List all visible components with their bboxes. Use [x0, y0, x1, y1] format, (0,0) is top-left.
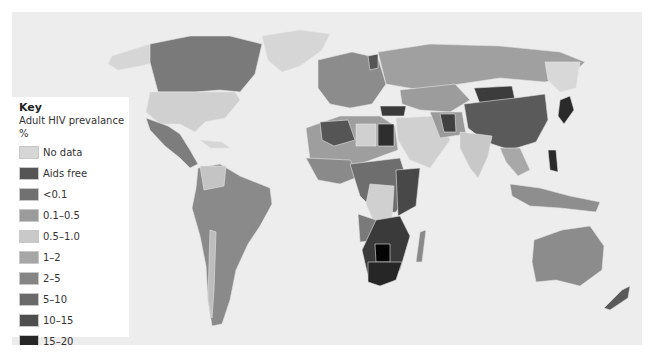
legend-item-lt-0-1: <0.1 [19, 184, 129, 205]
legend-label: 5–10 [43, 294, 67, 305]
region-philippines [548, 150, 558, 172]
region-madagascar [416, 230, 426, 262]
region-turkey [380, 106, 406, 116]
legend-swatch [19, 251, 39, 264]
legend: Key Adult HIV prevalance % No data Aids … [12, 97, 129, 337]
region-far-east-russia [545, 62, 580, 92]
region-egypt [378, 124, 394, 146]
region-canada [150, 36, 262, 92]
legend-item-1-2: 1–2 [19, 247, 129, 268]
region-finland [368, 54, 378, 70]
region-venezuela [200, 166, 226, 190]
legend-swatch [19, 272, 39, 285]
legend-swatch [19, 314, 39, 327]
legend-title: Key [19, 101, 129, 114]
legend-label: 0.5–1.0 [43, 231, 80, 242]
legend-item-5-10: 5–10 [19, 289, 129, 310]
legend-swatch [19, 230, 39, 243]
legend-swatch [19, 209, 39, 222]
region-se-asia [500, 148, 530, 176]
region-australia [532, 226, 604, 286]
legend-item-0-5-1-0: 0.5–1.0 [19, 226, 129, 247]
region-indonesia [510, 184, 600, 212]
legend-swatch [19, 167, 39, 180]
legend-item-no-data: No data [19, 142, 129, 163]
legend-swatch [19, 188, 39, 201]
legend-subtitle: Adult HIV prevalance % [19, 114, 129, 140]
region-india [460, 132, 492, 178]
legend-item-2-5: 2–5 [19, 268, 129, 289]
region-botswana [375, 244, 390, 262]
region-libya [356, 124, 376, 146]
region-east-africa [396, 168, 420, 216]
legend-label: 15–20 [43, 336, 73, 345]
legend-label: 2–5 [43, 273, 61, 284]
legend-item-0-1-0-5: 0.1–0.5 [19, 205, 129, 226]
legend-label: 10–15 [43, 315, 73, 326]
legend-swatch [19, 146, 39, 159]
legend-item-aids-free: Aids free [19, 163, 129, 184]
legend-item-10-15: 10–15 [19, 310, 129, 331]
legend-label: 0.1–0.5 [43, 210, 80, 221]
legend-swatch [19, 293, 39, 306]
legend-label: Aids free [43, 168, 87, 179]
legend-swatch [19, 335, 39, 345]
region-new-zealand [604, 286, 630, 310]
legend-label: No data [43, 147, 82, 158]
region-south-africa [368, 262, 402, 286]
world-map-panel: Key Adult HIV prevalance % No data Aids … [12, 12, 642, 345]
region-drc [366, 184, 394, 222]
region-japan [558, 96, 574, 124]
legend-item-15-20: 15–20 [19, 331, 129, 345]
legend-label: 1–2 [43, 252, 61, 263]
legend-label: <0.1 [43, 189, 67, 200]
region-alaska [108, 44, 156, 70]
region-caribbean [200, 140, 230, 148]
